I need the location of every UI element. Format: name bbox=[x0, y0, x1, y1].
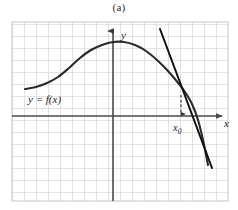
figure-container: (a) bbox=[0, 0, 238, 210]
y-axis-label: y bbox=[120, 29, 126, 41]
plot-area: y x y = f(x) x0 bbox=[0, 0, 238, 210]
x-axis-label: x bbox=[223, 117, 229, 129]
graph-svg: y x y = f(x) x0 bbox=[0, 0, 238, 210]
function-label: y = f(x) bbox=[27, 93, 61, 106]
x0-label-subscript: 0 bbox=[178, 127, 182, 136]
